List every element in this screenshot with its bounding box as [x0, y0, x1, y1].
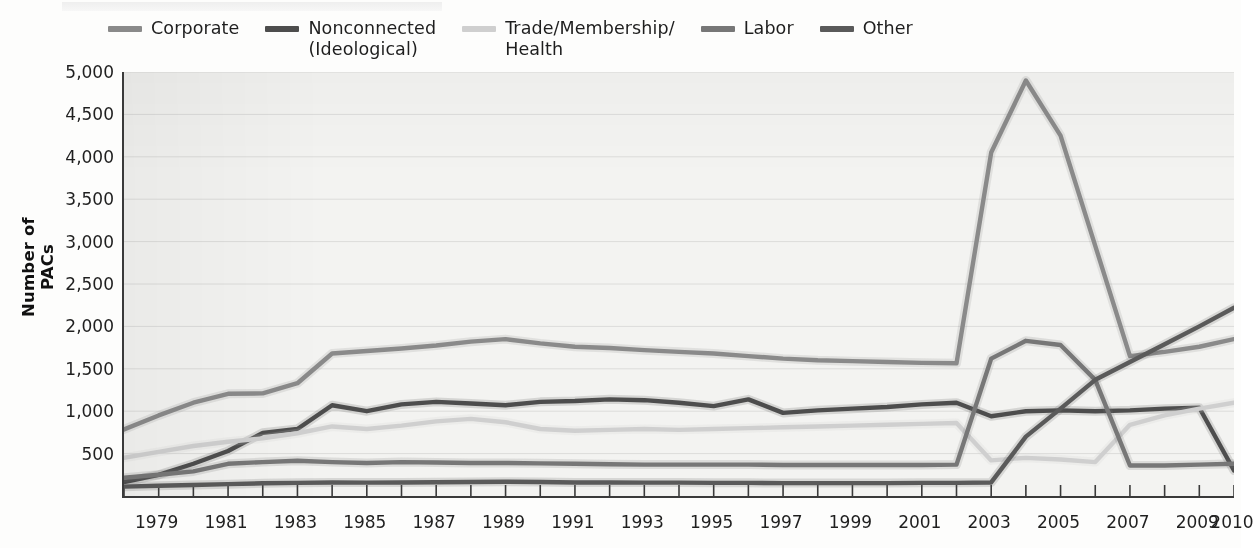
x-axis-tick-label: 1979 [117, 512, 197, 532]
legend-swatch-icon [462, 26, 496, 32]
x-axis-tick-label: 1997 [741, 512, 821, 532]
gridlines [124, 72, 1234, 454]
x-axis-tick-label: 1995 [672, 512, 752, 532]
chart-legend: CorporateNonconnected (Ideological)Trade… [108, 18, 1108, 64]
legend-swatch-icon [701, 26, 735, 32]
y-axis-tick-label: 5,000 [44, 62, 114, 82]
legend-item-other[interactable]: Other [820, 18, 913, 39]
x-axis-tick-label: 1981 [186, 512, 266, 532]
legend-item-corporate[interactable]: Corporate [108, 18, 239, 39]
legend-item-labor[interactable]: Labor [701, 18, 794, 39]
x-axis-tick-label: 2001 [880, 512, 960, 532]
series-line-nonconnected[interactable] [124, 399, 1234, 482]
x-axis-tick-label: 1983 [255, 512, 335, 532]
y-axis-tick-label: 1,000 [44, 401, 114, 421]
x-axis-tick-label: 1993 [602, 512, 682, 532]
x-axis-tick-label: 1999 [810, 512, 890, 532]
x-axis-tick-label: 1985 [325, 512, 405, 532]
legend-swatch-icon [820, 26, 854, 32]
x-axis-tick-label: 2003 [949, 512, 1029, 532]
y-axis-tick-label: 4,500 [44, 104, 114, 124]
y-axis-tick-label: 1,500 [44, 359, 114, 379]
y-axis-tick-label: 2,500 [44, 274, 114, 294]
y-axis-tick-label: 2,000 [44, 316, 114, 336]
x-axis-tick-label: 2005 [1019, 512, 1099, 532]
x-axis-tick-label: 2010 [1192, 512, 1257, 532]
legend-item-label: Labor [744, 18, 794, 39]
legend-item-label: Corporate [151, 18, 239, 39]
y-axis-tick-label: 4,000 [44, 147, 114, 167]
y-axis-tick-label: 3,000 [44, 232, 114, 252]
legend-swatch-icon [265, 26, 299, 32]
scan-artifact-strip [62, 2, 442, 11]
plot-area [122, 72, 1234, 498]
y-axis-tick-labels: 5001,0001,5002,0002,5003,0003,5004,0004,… [42, 0, 114, 548]
legend-item-trade[interactable]: Trade/Membership/ Health [462, 18, 675, 59]
x-axis-tick-label: 2007 [1088, 512, 1168, 532]
legend-item-label: Nonconnected (Ideological) [308, 18, 436, 59]
x-axis-tick-label: 1987 [394, 512, 474, 532]
series-canvas [124, 72, 1234, 496]
series-line-corporate[interactable] [124, 80, 1234, 429]
legend-item-label: Other [863, 18, 913, 39]
y-axis-tick-label: 500 [44, 444, 114, 464]
legend-item-nonconnected[interactable]: Nonconnected (Ideological) [265, 18, 436, 59]
y-axis-tick-label: 3,500 [44, 189, 114, 209]
series-blur-corporate [124, 80, 1234, 429]
x-axis-tick-label: 1989 [464, 512, 544, 532]
legend-item-label: Trade/Membership/ Health [505, 18, 675, 59]
x-axis-tick-label: 1991 [533, 512, 613, 532]
